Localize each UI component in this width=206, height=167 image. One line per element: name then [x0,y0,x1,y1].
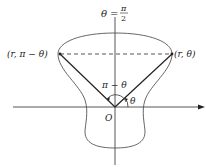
point-left [59,53,62,56]
point-right [171,53,174,56]
angle-label-pi-minus-theta: π − θ [101,80,127,90]
right-point-label: (r, θ) [174,49,196,59]
pi-numerator: π [120,4,127,13]
theta-label: θ [101,8,107,19]
polar-symmetry-diagram: θ = π 2 (r, π − θ) (r, θ) π − θ θ O [0,0,206,167]
angle-label-theta: θ [130,96,136,106]
origin-label: O [105,113,113,123]
axis-arrow-icon [198,105,205,110]
angle-arc-pi-minus-theta [107,95,126,102]
left-point-label: (r, π − θ) [7,49,48,59]
equals-sign: = [110,8,118,19]
two-denominator: 2 [121,14,126,23]
